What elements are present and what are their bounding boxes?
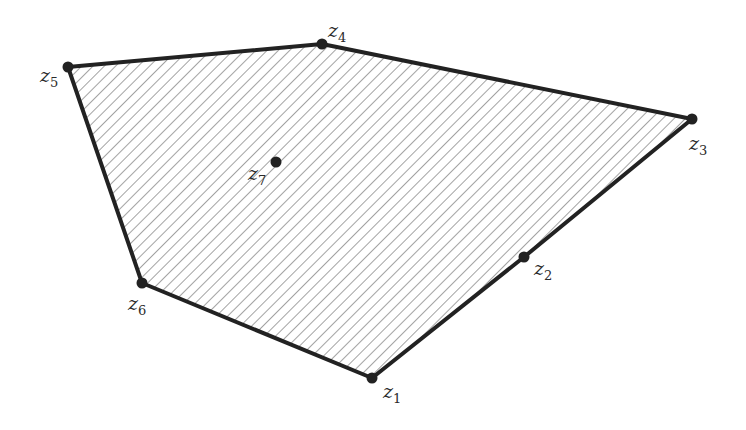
- vertex-label-z2: z2: [533, 257, 552, 283]
- vertex-label-z5: z5: [39, 64, 58, 90]
- vertex-label-z3: z3: [688, 132, 707, 158]
- vertex-z1: [367, 373, 378, 384]
- vertex-label-z6: z6: [127, 292, 146, 318]
- vertex-z5: [63, 62, 74, 73]
- vertex-z7: [271, 157, 282, 168]
- vertex-z6: [137, 278, 148, 289]
- polygon-diagram: z1z2z3z4z5z6z7: [0, 0, 746, 430]
- hatched-region: [68, 44, 692, 378]
- vertex-z3: [687, 114, 698, 125]
- vertex-label-z4: z4: [327, 19, 346, 45]
- vertex-z4: [317, 39, 328, 50]
- vertex-label-z1: z1: [382, 380, 401, 406]
- vertex-z2: [519, 252, 530, 263]
